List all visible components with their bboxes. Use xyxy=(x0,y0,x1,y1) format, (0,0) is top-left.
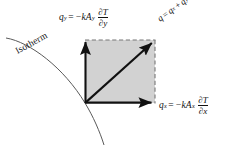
qy-coefficient: −kA xyxy=(75,13,91,23)
qx-fraction-denominator: ∂x xyxy=(198,105,208,115)
qy-partial-derivative-fraction: ∂T ∂y xyxy=(97,8,108,28)
qy-fraction-numerator: ∂T xyxy=(97,8,108,17)
qx-partial-derivative-fraction: ∂T ∂x xyxy=(197,96,208,116)
qx-fraction-numerator: ∂T xyxy=(197,96,208,105)
qy-equals-sign: = xyxy=(67,13,75,23)
qy-equation-label: qy = −kAy ∂T ∂y xyxy=(59,8,109,28)
qx-equation-label: qx = −kAx ∂T ∂x xyxy=(159,96,209,116)
qx-equation: qx = −kAx ∂T ∂x xyxy=(159,96,209,116)
qy-equation: qy = −kAy ∂T ∂y xyxy=(59,8,109,28)
qx-coefficient: −kA xyxy=(175,101,191,111)
heat-flux-vector-figure: qy = −kAy ∂T ∂y qx = −kAx ∂T ∂x q = qx + xyxy=(0,0,233,150)
qx-coefficient-subscript: x xyxy=(192,103,195,109)
qx-equals-sign: = xyxy=(167,101,175,111)
qy-coefficient-subscript: y xyxy=(92,15,95,21)
figure-canvas xyxy=(0,0,233,150)
qy-fraction-denominator: ∂y xyxy=(98,17,108,27)
